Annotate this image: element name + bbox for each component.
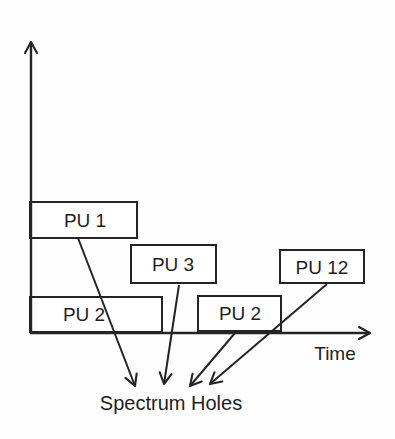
pu-box-12-label: PU 12 [296, 257, 349, 278]
pu-box-2-left-label: PU 2 [63, 304, 105, 325]
pu-box-2-left: PU 2 [30, 297, 162, 332]
spectrum-holes-label: Spectrum Holes [100, 392, 242, 414]
pu-box-3-label: PU 3 [152, 254, 194, 275]
pu-box-12: PU 12 [280, 250, 364, 283]
spectrum-holes-diagram: PU 1 PU 3 PU 12 PU 2 PU 2 Time Spectrum … [0, 0, 395, 439]
pu-box-1: PU 1 [30, 202, 137, 238]
pu-box-1-label: PU 1 [64, 210, 106, 231]
x-axis-label: Time [314, 343, 356, 364]
diagram-canvas: PU 1 PU 3 PU 12 PU 2 PU 2 Time Spectrum … [0, 0, 395, 439]
pu-box-3: PU 3 [131, 245, 216, 283]
arrow-pu3-to-spectrum-hole [164, 285, 179, 384]
arrow-pu2-to-spectrum-hole [190, 333, 235, 386]
pu-box-2-right-label: PU 2 [219, 303, 261, 324]
pu-box-2-right: PU 2 [198, 296, 281, 331]
